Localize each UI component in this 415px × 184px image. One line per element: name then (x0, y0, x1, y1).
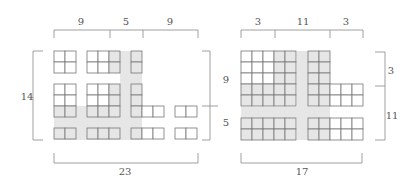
shaded-cell (319, 51, 330, 62)
shaded-cell (274, 118, 285, 129)
shaded-cell (263, 95, 274, 106)
grid-cell (87, 51, 98, 62)
cell-grid (175, 106, 197, 117)
shaded-cell (319, 84, 330, 95)
shaded-cell (285, 62, 296, 73)
cell-grid (87, 51, 120, 73)
shaded-cell (252, 118, 263, 129)
shaded-cell (109, 95, 120, 106)
shaded-cell (87, 128, 98, 139)
diagram-canvas: 9 5 9 14 9 5 23 (0, 0, 415, 184)
cell-grid (308, 118, 363, 140)
shade-band (297, 51, 308, 140)
shaded-cell (54, 128, 65, 139)
grid-cell (352, 95, 363, 106)
grid-cell (65, 95, 76, 106)
cell-grid (241, 118, 296, 140)
grid-cell (263, 73, 274, 84)
shaded-cell (308, 95, 319, 106)
grid-cell (153, 106, 164, 117)
shaded-cell (109, 128, 120, 139)
grid-cell (352, 84, 363, 95)
cell-grid (142, 106, 164, 117)
shaded-cell (274, 62, 285, 73)
grid-cell (98, 51, 109, 62)
right-top-label-3: 3 (343, 16, 349, 27)
grid-cell (241, 73, 252, 84)
grid-cell (98, 84, 109, 95)
shaded-cell (98, 106, 109, 117)
cell-grid (131, 128, 142, 139)
cell-grid (308, 51, 330, 106)
right-top-bracket (241, 30, 363, 38)
shaded-cell (285, 95, 296, 106)
grid-cell (65, 51, 76, 62)
shaded-cell (109, 51, 120, 62)
shaded-cell (274, 84, 285, 95)
right-diagram: 3 11 3 3 11 17 (241, 16, 398, 177)
shaded-cell (308, 84, 319, 95)
grid-cell (263, 62, 274, 73)
shaded-cell (319, 118, 330, 129)
grid-cell (330, 84, 341, 95)
shaded-cell (308, 51, 319, 62)
right-top-label-2: 11 (297, 16, 310, 27)
shaded-cell (252, 95, 263, 106)
shaded-cell (319, 129, 330, 140)
shaded-cell (319, 73, 330, 84)
shaded-cell (252, 84, 263, 95)
shaded-cell (87, 106, 98, 117)
left-diagram: 9 5 9 14 9 5 23 (21, 16, 230, 177)
shaded-cell (131, 128, 142, 139)
cell-grid (54, 128, 76, 139)
left-bottom-bracket (54, 153, 198, 163)
shaded-cell (285, 118, 296, 129)
grid-cell (87, 95, 98, 106)
left-side-bracket (33, 51, 43, 140)
left-top-label-2: 5 (123, 16, 129, 27)
cell-grid (54, 51, 76, 73)
grid-cell (252, 62, 263, 73)
grid-cell (54, 84, 65, 95)
shaded-cell (241, 129, 252, 140)
shaded-cell (98, 128, 109, 139)
grid-cell (263, 51, 274, 62)
left-side-label: 14 (21, 91, 34, 102)
grid-cell (341, 129, 352, 140)
grid-cell (252, 73, 263, 84)
shaded-cell (131, 95, 142, 106)
cell-grid (87, 128, 120, 139)
grid-cell (153, 128, 164, 139)
shaded-cell (131, 51, 142, 62)
grid-cell (252, 51, 263, 62)
right-bottom-label: 17 (296, 166, 309, 177)
shaded-cell (109, 106, 120, 117)
shaded-cell (65, 128, 76, 139)
grid-cell (241, 62, 252, 73)
grid-cell (341, 84, 352, 95)
cell-grid (142, 128, 164, 139)
cell-grid (330, 84, 363, 106)
grid-cell (54, 95, 65, 106)
shaded-cell (109, 62, 120, 73)
shaded-cell (131, 84, 142, 95)
left-bottom-label: 23 (119, 166, 132, 177)
right-side-label-1: 3 (388, 65, 394, 76)
shaded-cell (241, 118, 252, 129)
shaded-cell (308, 73, 319, 84)
grid-cell (175, 128, 186, 139)
cell-grid (131, 51, 142, 73)
shaded-cell (308, 62, 319, 73)
grid-cell (241, 51, 252, 62)
cell-grid (131, 84, 142, 117)
shaded-cell (274, 51, 285, 62)
left-top-label-3: 9 (167, 16, 173, 27)
left-right-bracket (202, 51, 218, 140)
left-top-bracket (54, 30, 198, 38)
shaded-cell (131, 62, 142, 73)
grid-cell (65, 62, 76, 73)
grid-cell (142, 128, 153, 139)
shaded-cell (263, 118, 274, 129)
grid-cell (87, 84, 98, 95)
grid-cell (352, 129, 363, 140)
